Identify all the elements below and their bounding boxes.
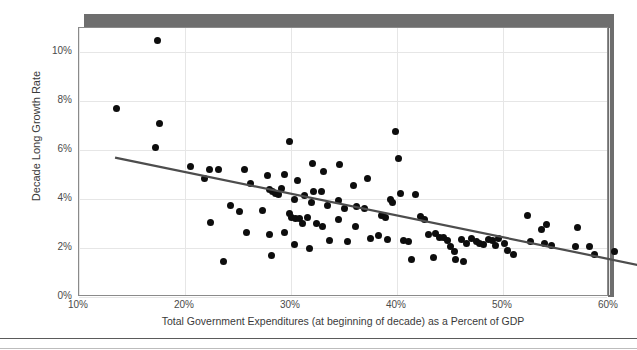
- gridline-vertical: [609, 28, 610, 295]
- scatter-plot-area: [78, 27, 608, 296]
- gridline-horizontal: [79, 297, 607, 298]
- x-axis-title: Total Government Expenditures (at beginn…: [78, 315, 608, 327]
- plot-shadow-top: [84, 14, 614, 27]
- y-axis-tick-label: 2%: [58, 242, 72, 252]
- y-axis-tick-label: 4%: [58, 193, 72, 203]
- x-axis-tick-label: 40%: [386, 300, 406, 310]
- footer-divider-primary: [0, 338, 637, 339]
- y-axis-title: Decade Long Growth Rate: [30, 36, 42, 236]
- x-axis-tick-label: 30%: [280, 300, 300, 310]
- x-axis-tick-labels: 10%20%30%40%50%60%: [0, 300, 637, 316]
- scatter-point: [611, 248, 618, 255]
- footer-divider-secondary: [0, 348, 637, 349]
- trend-line-segment: [115, 158, 637, 268]
- x-axis-tick-label: 20%: [174, 300, 194, 310]
- trend-line: [79, 28, 609, 297]
- x-axis-tick-label: 10%: [68, 300, 88, 310]
- y-axis-tick-label: 8%: [58, 95, 72, 105]
- x-axis-tick-label: 60%: [598, 300, 618, 310]
- y-axis-tick-label: 6%: [58, 144, 72, 154]
- chart-figure: 0%2%4%6%8%10% 10%20%30%40%50%60% Decade …: [0, 0, 637, 350]
- x-axis-tick-label: 50%: [492, 300, 512, 310]
- y-axis-tick-label: 10%: [52, 46, 72, 56]
